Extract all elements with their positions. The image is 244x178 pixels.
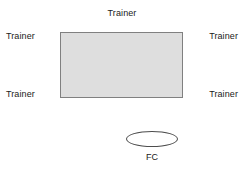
fc-label: FC [126,152,178,163]
central-room-rectangle [60,32,183,98]
trainer-label-top-right: Trainer [209,31,238,42]
fc-ellipse [126,131,178,147]
diagram-canvas: Trainer Trainer Trainer Trainer Trainer … [0,0,244,178]
trainer-label-top: Trainer [0,8,244,19]
trainer-label-bottom-right: Trainer [209,89,238,100]
trainer-label-bottom-left: Trainer [6,89,35,100]
trainer-label-top-left: Trainer [6,31,35,42]
